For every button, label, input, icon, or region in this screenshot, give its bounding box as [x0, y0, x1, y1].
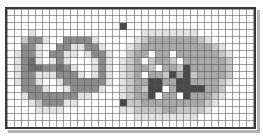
pixel-cell: [219, 78, 226, 85]
pixel-cell: [141, 30, 148, 37]
pixel-cell: [71, 44, 78, 51]
pixel-cell: [162, 113, 169, 120]
pixel-cell: [162, 78, 169, 85]
pixel-cell: [148, 71, 155, 78]
pixel-cell: [190, 92, 197, 99]
pixel-cell: [205, 44, 212, 51]
pixel-cell: [21, 78, 28, 85]
pixel-cell: [219, 58, 226, 65]
pixel-cell: [71, 78, 78, 85]
pixel-cell: [106, 78, 113, 85]
pixel-cell: [120, 85, 127, 92]
pixel-cell: [155, 58, 162, 65]
pixel-cell: [85, 78, 92, 85]
pixel-cell: [141, 113, 148, 120]
pixel-cell: [21, 71, 28, 78]
pixel-cell: [71, 65, 78, 72]
pixel-cell: [205, 71, 212, 78]
pixel-cell: [212, 78, 219, 85]
pixel-cell: [169, 71, 176, 78]
pixel-cell: [56, 99, 63, 106]
pixel-cell: [56, 51, 63, 58]
pixel-cell: [99, 85, 106, 92]
pixel-cell: [148, 58, 155, 65]
pixel-cell: [78, 37, 85, 44]
pixel-cell: [176, 37, 183, 44]
pixel-cell: [169, 58, 176, 65]
pixel-cell: [176, 30, 183, 37]
pixel-cell: [176, 106, 183, 113]
pixel-cell: [56, 92, 63, 99]
pixel-cell: [35, 71, 42, 78]
pixel-cell: [28, 71, 35, 78]
pixel-cell: [56, 106, 63, 113]
pixel-cell: [71, 37, 78, 44]
pixel-cell: [106, 51, 113, 58]
pixel-cell: [85, 37, 92, 44]
pixel-cell: [148, 44, 155, 51]
pixel-cell: [120, 71, 127, 78]
pixel-cell: [28, 78, 35, 85]
pixel-cell: [183, 106, 190, 113]
pixel-cell: [219, 71, 226, 78]
pixel-cell: [134, 92, 141, 99]
pixel-cell: [42, 37, 49, 44]
pixel-cell: [155, 78, 162, 85]
pixel-cell: [28, 44, 35, 51]
grid-canvas[interactable]: [7, 9, 254, 127]
pixel-cell: [190, 71, 197, 78]
pixel-cell: [134, 99, 141, 106]
pixel-cell: [141, 99, 148, 106]
pixel-cell: [106, 58, 113, 65]
pixel-cell: [42, 99, 49, 106]
pixel-cell: [162, 65, 169, 72]
pixel-cell: [92, 51, 99, 58]
pixel-cell: [99, 51, 106, 58]
pixel-cell: [198, 71, 205, 78]
pixel-cell: [198, 92, 205, 99]
pixel-cell: [141, 37, 148, 44]
pixel-cell: [162, 37, 169, 44]
pixel-cell: [35, 78, 42, 85]
pixel-cell: [176, 85, 183, 92]
pixel-cell: [212, 99, 219, 106]
pixel-cell: [169, 78, 176, 85]
grid-frame[interactable]: [5, 7, 256, 129]
pixel-cell: [155, 99, 162, 106]
pixel-cell: [120, 65, 127, 72]
pixel-cell: [176, 78, 183, 85]
pixel-cell: [35, 99, 42, 106]
pixel-cell: [169, 113, 176, 120]
pixel-cell: [205, 106, 212, 113]
pixel-cell: [176, 71, 183, 78]
pixel-cell: [28, 85, 35, 92]
pixel-cell: [92, 71, 99, 78]
pixel-cell: [148, 106, 155, 113]
pixel-cell: [205, 65, 212, 72]
pixel-cell: [92, 37, 99, 44]
pixel-cell: [155, 44, 162, 51]
pixel-cell: [28, 92, 35, 99]
pixel-cell: [134, 85, 141, 92]
pixel-cell: [141, 78, 148, 85]
pixel-cell: [14, 78, 21, 85]
pixel-cell: [127, 71, 134, 78]
pixel-cell: [99, 58, 106, 65]
pixel-cell: [155, 51, 162, 58]
pixel-cell: [127, 58, 134, 65]
pixel-cell: [169, 44, 176, 51]
pixel-cell: [212, 65, 219, 72]
pixel-cell: [198, 58, 205, 65]
pixel-cell: [56, 78, 63, 85]
pixel-cell: [92, 44, 99, 51]
pixel-cell: [35, 92, 42, 99]
pixel-cell: [219, 44, 226, 51]
pixel-cell: [21, 51, 28, 58]
pixel-cell: [120, 78, 127, 85]
pixel-cell: [78, 78, 85, 85]
pixel-cell: [127, 78, 134, 85]
pixel-cell: [85, 51, 92, 58]
pixel-cell: [21, 44, 28, 51]
pixel-cell: [56, 44, 63, 51]
pixel-cell: [63, 65, 70, 72]
